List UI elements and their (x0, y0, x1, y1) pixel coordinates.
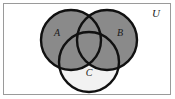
universal-set-label: U (152, 7, 161, 19)
venn-diagram-figure: A B C U (0, 0, 175, 99)
venn-diagram-canvas: A B C U (0, 0, 175, 99)
set-b-label: B (117, 27, 123, 38)
set-a-label: A (53, 27, 61, 38)
set-c-label: C (86, 67, 93, 78)
